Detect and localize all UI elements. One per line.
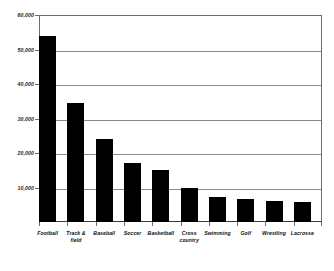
x-axis: FootballTrack & fieldBaseballSoccerBaske… [39, 224, 322, 264]
y-tick-label: 60,000 [5, 12, 34, 18]
x-tick-label: Basketball [147, 230, 175, 237]
bar [124, 163, 141, 222]
bar [67, 103, 84, 222]
y-tick-label: 10,000 [5, 185, 34, 191]
x-tick-mark [237, 222, 238, 226]
bar [209, 197, 226, 222]
x-tick-label: Track & field [62, 230, 90, 244]
y-tick-label: 50,000 [5, 47, 34, 53]
bar [237, 199, 254, 222]
y-tick-label: 20,000 [5, 150, 34, 156]
x-tick-label: Baseball [90, 230, 118, 237]
x-tick-label: Soccer [118, 230, 146, 237]
x-tick-mark [39, 222, 40, 226]
bar [152, 170, 169, 222]
x-tick-mark [321, 222, 322, 226]
bars-group [39, 15, 322, 222]
x-tick-mark [265, 222, 266, 226]
bar [39, 36, 56, 222]
x-tick-mark [294, 222, 295, 226]
x-tick-label: Lacrosse [288, 230, 316, 237]
x-tick-label: Cross country [175, 230, 203, 244]
x-tick-mark [181, 222, 182, 226]
x-tick-mark [96, 222, 97, 226]
x-tick-mark [209, 222, 210, 226]
x-tick-label: Golf [232, 230, 260, 237]
y-tick-label: 40,000 [5, 81, 34, 87]
y-tick-label: 30,000 [5, 116, 34, 122]
x-tick-mark [124, 222, 125, 226]
x-tick-label: Football [34, 230, 62, 237]
bar [96, 139, 113, 222]
x-tick-label: Swimming [203, 230, 231, 237]
bar [294, 202, 311, 222]
bar [266, 201, 283, 222]
x-tick-label: Wrestling [260, 230, 288, 237]
x-tick-mark [67, 222, 68, 226]
bar-chart: 60,00050,00040,00030,00020,00010,000 Foo… [0, 0, 334, 271]
bar [181, 188, 198, 223]
x-tick-mark [152, 222, 153, 226]
